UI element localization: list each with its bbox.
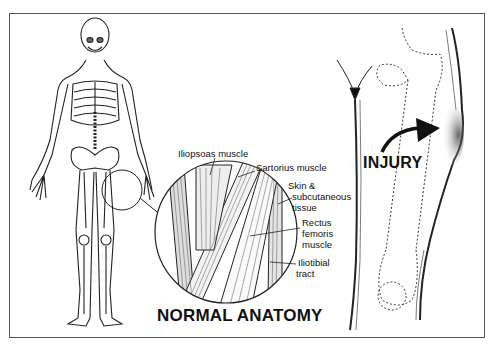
injured-thigh-figure — [337, 28, 463, 330]
label-iliopsoas: Iliopsoas muscle — [178, 148, 248, 159]
injury-arrow-icon — [382, 118, 440, 152]
magnified-muscle-view — [150, 160, 310, 310]
label-iliotibial-line1: Iliotibial — [298, 257, 330, 268]
label-skin-line1: Skin & — [288, 180, 315, 191]
skeleton-figure — [30, 18, 154, 326]
thigh-highlight-circle — [102, 170, 142, 210]
label-skin-line3: tissue — [292, 202, 317, 213]
label-sartorius: Sartorius muscle — [256, 162, 327, 173]
label-iliotibial-line2: tract — [296, 268, 314, 279]
label-rectus-line3: muscle — [302, 239, 332, 250]
label-skin-line2: subcutaneous — [292, 191, 351, 202]
normal-anatomy-title: NORMAL ANATOMY — [157, 306, 323, 326]
anatomy-illustration — [0, 0, 493, 349]
label-rectus-line2: femoris — [302, 228, 333, 239]
label-rectus-line1: Rectus — [302, 217, 332, 228]
injury-title: INJURY — [363, 154, 422, 172]
callout-line — [140, 198, 157, 212]
swelling-shading — [436, 103, 464, 167]
